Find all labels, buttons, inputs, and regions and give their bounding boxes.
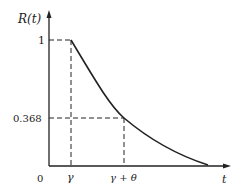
x-tick-gamma-theta: γ + θ xyxy=(110,172,137,183)
y-axis-label: R(t) xyxy=(17,12,42,26)
x-axis-label: t xyxy=(222,173,227,186)
x-axis-arrow-icon xyxy=(223,164,231,169)
reliability-curve xyxy=(71,40,208,165)
y-tick-0368: 0.368 xyxy=(13,113,42,124)
y-axis-arrow-icon xyxy=(47,10,52,18)
reliability-diagram: R(t) 1 0.368 0 γ γ + θ t xyxy=(0,0,241,188)
x-tick-gamma: γ xyxy=(67,171,74,184)
y-tick-one: 1 xyxy=(38,34,45,47)
origin-label: 0 xyxy=(37,173,43,184)
